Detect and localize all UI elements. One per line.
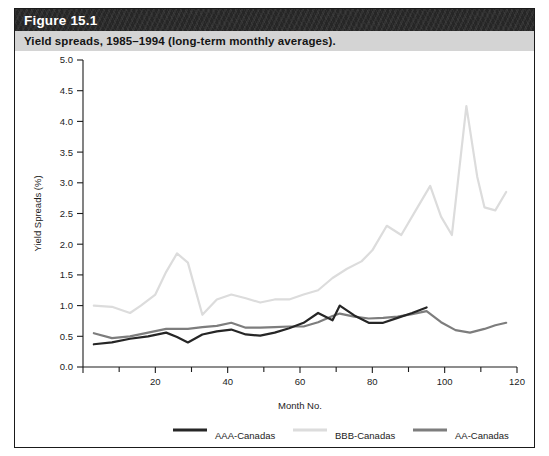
figure-caption-label: Yield spreads, 1985–1994 (long-term mont…: [24, 35, 336, 47]
x-tick-label: 80: [367, 376, 378, 387]
legend-label-aa-canadas: AA-Canadas: [455, 430, 509, 441]
y-tick-label: 1.0: [60, 300, 73, 311]
x-tick-label: 20: [150, 376, 161, 387]
x-axis-title: Month No.: [278, 400, 322, 411]
y-axis-title: Yield Spreads (%): [32, 175, 43, 251]
x-tick-label: 120: [509, 376, 525, 387]
y-tick-label: 3.0: [60, 177, 73, 188]
y-tick-label: 4.5: [60, 85, 73, 96]
legend-label-bbb-canadas: BBB-Canadas: [335, 430, 395, 441]
legend-label-aaa-canadas: AAA-Canadas: [215, 430, 275, 441]
x-tick-label: 100: [437, 376, 453, 387]
chart-plot-area: 0.00.51.01.52.02.53.03.54.04.55.0 204060…: [15, 52, 534, 446]
x-tick-label: 40: [222, 376, 233, 387]
y-tick-label: 0.5: [60, 331, 73, 342]
x-axis: 20406080100120: [83, 367, 525, 387]
yield-spreads-line-chart: 0.00.51.01.52.02.53.03.54.04.55.0 204060…: [15, 52, 533, 446]
figure-caption-bar: Yield spreads, 1985–1994 (long-term mont…: [15, 31, 534, 52]
figure-header-bar: Figure 15.1: [15, 9, 534, 31]
y-tick-label: 0.0: [60, 361, 73, 372]
figure-container: Figure 15.1 Yield spreads, 1985–1994 (lo…: [14, 8, 535, 448]
series-line-bbb-canadas: [94, 106, 506, 315]
y-axis: 0.00.51.01.52.02.53.03.54.04.55.0: [60, 54, 83, 372]
axis-titles: Yield Spreads (%)Month No.: [32, 175, 322, 411]
figure-number-label: Figure 15.1: [24, 13, 97, 28]
y-tick-label: 2.0: [60, 239, 73, 250]
x-tick-label: 60: [295, 376, 306, 387]
y-tick-label: 4.0: [60, 116, 73, 127]
y-tick-label: 3.5: [60, 147, 73, 158]
series-line-aaa-canadas: [94, 306, 427, 345]
y-tick-label: 1.5: [60, 269, 73, 280]
chart-series-group: [94, 106, 506, 344]
y-tick-label: 2.5: [60, 208, 73, 219]
y-tick-label: 5.0: [60, 54, 73, 65]
chart-legend: AAA-CanadasBBB-CanadasAA-Canadas: [173, 430, 509, 441]
